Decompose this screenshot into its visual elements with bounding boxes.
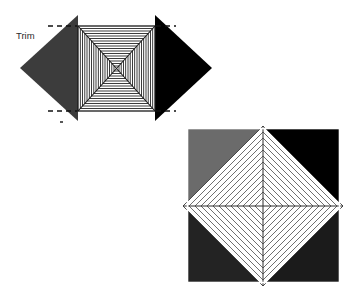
bottom-figure [183, 126, 343, 286]
trim-label: Trim [16, 30, 35, 41]
diagram-canvas: Trim [0, 0, 352, 297]
